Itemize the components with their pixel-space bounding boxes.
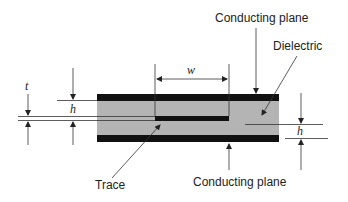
h-left-label: h [70,102,76,116]
h-left-dimension [57,68,97,145]
bottom-conducting-plane-label: Conducting plane [193,175,287,189]
dielectric-leader [262,56,297,115]
dielectric-label: Dielectric [273,39,322,53]
t-label: t [25,79,29,93]
stripline-diagram: t h w h Conducting plane Dielectric Trac… [0,0,348,202]
top-conducting-plane [97,94,279,101]
h-right-label: h [297,124,303,138]
trace [155,116,229,121]
w-label: w [187,63,195,77]
trace-label: Trace [95,178,126,192]
bottom-conducting-plane [97,135,279,142]
top-conducting-plane-label: Conducting plane [215,11,309,25]
